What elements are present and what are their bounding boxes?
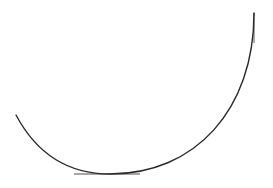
arc-curve xyxy=(16,13,254,174)
diagram-canvas xyxy=(0,0,273,188)
